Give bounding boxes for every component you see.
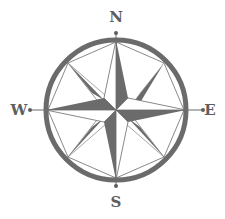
north-label: N — [109, 8, 123, 26]
east-point-light — [116, 98, 186, 110]
compass-rose: N E S W — [0, 0, 225, 219]
south-point-light — [116, 110, 128, 180]
sw-point-light — [68, 116, 106, 157]
west-point-light — [46, 110, 116, 122]
east-label: E — [204, 101, 215, 119]
south-label: S — [111, 193, 122, 211]
north-point-light — [104, 40, 116, 110]
se-point-light — [126, 116, 164, 157]
west-point-dark — [46, 98, 116, 110]
west-label: W — [10, 101, 29, 119]
north-dot-icon — [114, 31, 118, 35]
ne-point-light — [124, 63, 164, 104]
west-dot-icon — [28, 108, 32, 112]
south-dot-icon — [114, 184, 118, 188]
